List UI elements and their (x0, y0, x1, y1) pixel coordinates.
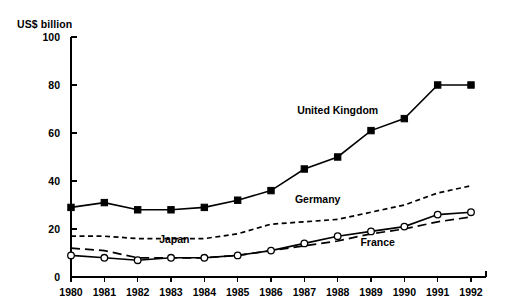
marker-square-united-kingdom (101, 199, 107, 205)
series-annotation-france: France (360, 236, 395, 248)
marker-square-united-kingdom (168, 207, 174, 213)
marker-circle-japan (434, 211, 441, 218)
axis-spines (71, 37, 486, 277)
marker-square-united-kingdom (468, 82, 474, 88)
series-annotation-united-kingdom: United Kingdom (297, 104, 378, 116)
marker-circle-japan (168, 254, 175, 261)
marker-circle-japan (268, 247, 275, 254)
marker-square-united-kingdom (334, 154, 340, 160)
marker-square-united-kingdom (201, 204, 207, 210)
marker-circle-japan (134, 257, 141, 264)
marker-circle-japan (201, 254, 208, 261)
x-axis-ticks: 1980198119821983198419851986198719881989… (59, 277, 483, 298)
marker-circle-japan (234, 252, 241, 259)
x-tick-label: 1990 (393, 286, 417, 298)
marker-circle-japan (334, 233, 341, 240)
marker-square-united-kingdom (401, 115, 407, 121)
y-tick-label: 60 (48, 127, 60, 139)
y-axis-ticks: 020406080100 (42, 31, 77, 283)
marker-circle-japan (68, 252, 75, 259)
x-tick-label: 1985 (226, 286, 250, 298)
marker-circle-japan (401, 223, 408, 230)
x-tick-label: 1983 (159, 286, 183, 298)
x-tick-label: 1982 (126, 286, 150, 298)
chart-axes (71, 37, 486, 277)
marker-square-united-kingdom (434, 82, 440, 88)
x-tick-label: 1986 (259, 286, 283, 298)
series-annotation-japan: Japan (159, 233, 189, 245)
x-tick-label: 1991 (426, 286, 450, 298)
x-tick-label: 1989 (359, 286, 383, 298)
marker-square-united-kingdom (301, 166, 307, 172)
marker-circle-japan (301, 240, 308, 247)
x-tick-label: 1988 (326, 286, 350, 298)
line-chart-plot: 020406080100 198019811982198319841985198… (0, 0, 516, 302)
marker-circle-japan (468, 209, 475, 216)
y-tick-label: 80 (48, 79, 60, 91)
y-tick-label: 40 (48, 175, 60, 187)
marker-circle-japan (368, 228, 375, 235)
marker-square-united-kingdom (234, 197, 240, 203)
y-tick-label: 20 (48, 223, 60, 235)
marker-square-united-kingdom (268, 187, 274, 193)
x-tick-label: 1981 (93, 286, 117, 298)
series-annotations-group: United KingdomGermanyJapanFrance (159, 104, 395, 248)
x-tick-label: 1984 (193, 286, 217, 298)
y-tick-label: 0 (54, 271, 60, 283)
x-tick-label: 1987 (293, 286, 317, 298)
y-tick-label: 100 (42, 31, 60, 43)
marker-circle-japan (101, 254, 108, 261)
data-series-group (71, 85, 471, 260)
marker-square-united-kingdom (68, 204, 74, 210)
chart-figure: US$ billion 020406080100 198019811982198… (0, 0, 516, 302)
marker-square-united-kingdom (368, 127, 374, 133)
x-tick-label: 1992 (459, 286, 483, 298)
series-annotation-germany: Germany (295, 193, 341, 205)
x-tick-label: 1980 (59, 286, 83, 298)
marker-square-united-kingdom (134, 207, 140, 213)
